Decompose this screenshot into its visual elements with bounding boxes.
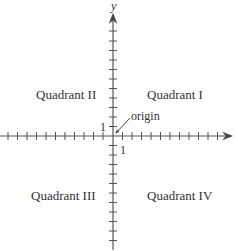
y-axis-label: y <box>110 0 117 13</box>
coordinate-plane: y Quadrant II Quadrant I Quadrant III Qu… <box>0 0 238 251</box>
x-unit-label: 1 <box>120 143 126 157</box>
quadrant-iii-label: Quadrant III <box>31 188 96 203</box>
origin-pointer-arrow <box>116 118 130 133</box>
origin-label: origin <box>131 109 160 123</box>
quadrant-iv-label: Quadrant IV <box>147 188 213 203</box>
quadrant-i-label: Quadrant I <box>147 87 203 102</box>
quadrant-ii-label: Quadrant II <box>36 87 96 102</box>
y-unit-label: 1 <box>100 120 106 134</box>
